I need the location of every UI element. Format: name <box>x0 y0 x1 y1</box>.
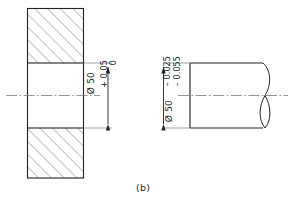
figure-caption: (b) <box>136 182 150 193</box>
drawing-canvas: + 0.05 0 Ø 50 – 0.025 – 0.055 Ø 50 (b) <box>0 0 288 202</box>
shaft-upper-tolerance: – 0.025 <box>164 56 172 86</box>
shaft-break-line-lower <box>265 96 270 129</box>
hole-nominal-dimension: Ø 50 <box>87 72 96 94</box>
upper-block-hatch <box>28 9 84 64</box>
hole-upper-tolerance: + 0.05 <box>101 60 109 88</box>
lower-block-hatch <box>28 128 84 178</box>
shaft-nominal-dimension: Ø 50 <box>165 100 174 122</box>
upper-section-block <box>28 9 84 64</box>
lower-section-block <box>28 128 84 178</box>
hole-lower-tolerance: 0 <box>110 60 118 65</box>
hole-section-view <box>6 9 112 179</box>
technical-drawing-svg <box>0 0 288 202</box>
shaft-lower-tolerance: – 0.055 <box>174 56 182 86</box>
